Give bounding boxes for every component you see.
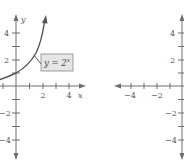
y-tick-label-4: 4: [4, 29, 9, 38]
x-axis-left-arrow-icon: [114, 84, 121, 89]
y-tick-label-neg4: −4: [165, 136, 177, 145]
x-tick-label-4: 4: [67, 91, 72, 100]
curve-arrow-icon: [42, 15, 48, 24]
y-tick-label-2: 2: [4, 56, 9, 65]
x-tick-label-neg2: −2: [151, 91, 163, 100]
x-axis-label: x: [78, 91, 83, 100]
y-axis-up-arrow-icon: [180, 14, 185, 21]
label-pointer: [34, 55, 41, 64]
y-axis-up-arrow-icon: [14, 14, 19, 21]
right-graph: −4 −2 4 2 −2 −4: [114, 14, 184, 160]
y-axis-label: y: [20, 15, 26, 24]
x-tick-label-neg4: −4: [124, 91, 136, 100]
function-graphs: y x 2 4 4 2 −2 −4 y = 2x: [0, 0, 184, 163]
y-tick-label-4: 4: [170, 29, 175, 38]
y-tick-label-neg2: −2: [0, 109, 11, 118]
y-tick-label-2: 2: [170, 56, 175, 65]
curve-label: y = 2x: [43, 56, 71, 68]
y-tick-label-neg2: −2: [165, 109, 177, 118]
y-tick-label-neg4: −4: [0, 136, 11, 145]
x-tick-label-2: 2: [41, 91, 46, 100]
y-axis-down-arrow-icon: [14, 153, 19, 160]
x-axis-arrow-icon: [79, 84, 86, 89]
y-axis-down-arrow-icon: [180, 153, 185, 160]
left-graph: y x 2 4 4 2 −2 −4 y = 2x: [0, 14, 86, 160]
